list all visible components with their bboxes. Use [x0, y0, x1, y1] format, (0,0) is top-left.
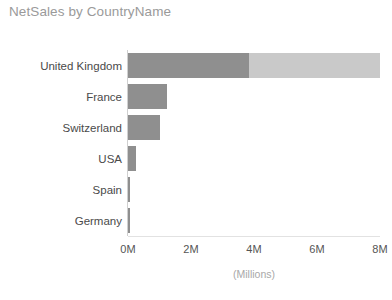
x-axis-tick-label: 8M: [372, 243, 387, 255]
bar[interactable]: [128, 208, 130, 233]
y-axis-label: United Kingdom: [4, 60, 122, 72]
y-axis-label-row: United Kingdom: [0, 50, 122, 81]
y-axis-label-row: USA: [0, 143, 122, 174]
bar-row: [128, 143, 380, 174]
y-axis-label: France: [4, 91, 122, 103]
y-axis-category-labels: United KingdomFranceSwitzerlandUSASpainG…: [0, 50, 122, 236]
chart-title: NetSales by CountryName: [9, 4, 171, 19]
bar-segment-dark: [128, 177, 130, 202]
bar-segment-dark: [128, 208, 130, 233]
bar[interactable]: [128, 146, 136, 171]
bar-segment-dark: [128, 146, 136, 171]
y-axis-label: Germany: [4, 215, 122, 227]
bar[interactable]: [128, 177, 130, 202]
y-axis-label-row: France: [0, 81, 122, 112]
chart-container: NetSales by CountryName United KingdomFr…: [0, 0, 392, 300]
y-axis-label-row: Spain: [0, 174, 122, 205]
bar[interactable]: [128, 53, 380, 78]
y-axis-label: Switzerland: [4, 122, 122, 134]
x-axis-tick-labels: 0M2M4M6M8M: [0, 243, 392, 259]
bar-row: [128, 112, 380, 143]
y-axis-label-row: Germany: [0, 205, 122, 236]
y-axis-label-row: Switzerland: [0, 112, 122, 143]
plot-area: [128, 50, 380, 236]
bar-row: [128, 174, 380, 205]
bar-row: [128, 205, 380, 236]
x-axis-tick-label: 0M: [120, 243, 135, 255]
bar-segment-dark: [128, 115, 160, 140]
y-axis-label: Spain: [4, 184, 122, 196]
bar-segment-dark: [128, 53, 249, 78]
bar-row: [128, 50, 380, 81]
bar[interactable]: [128, 115, 160, 140]
bar-segment-light: [249, 53, 380, 78]
bar-row: [128, 81, 380, 112]
bar[interactable]: [128, 84, 167, 109]
y-axis-label: USA: [4, 153, 122, 165]
x-axis-tick-label: 2M: [183, 243, 198, 255]
x-axis-tick-label: 4M: [246, 243, 261, 255]
bar-segment-dark: [128, 84, 167, 109]
x-axis-tick-label: 6M: [309, 243, 324, 255]
x-axis-title: (Millions): [128, 268, 380, 280]
x-axis-line: [128, 236, 380, 237]
